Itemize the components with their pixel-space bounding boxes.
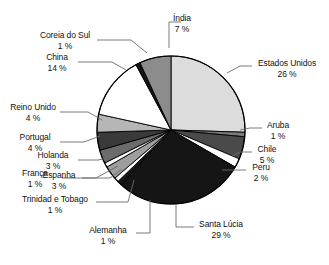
- leader-reino-unido: [60, 112, 102, 120]
- leader-portugal: [60, 136, 100, 142]
- callout-estados-unidos-name: Estados Unidos: [258, 58, 316, 68]
- callout-aruba: Aruba 1 %: [260, 120, 296, 141]
- pie-slice-estados-unidos[interactable]: [171, 56, 245, 132]
- callout-peru: Peru 2 %: [244, 162, 278, 183]
- callout-aruba-name: Aruba: [267, 120, 289, 130]
- callout-chile: Chile 5 %: [250, 144, 284, 165]
- pie-chart-figure: Índia 7 % Coreia do Sul 1 % China 14 % R…: [0, 0, 329, 265]
- callout-reino-unido-value: 4 %: [6, 113, 60, 124]
- leader-china: [78, 62, 126, 70]
- leader-alemanha: [136, 200, 150, 233]
- callout-coreia-do-sul-value: 1 %: [34, 41, 96, 52]
- callout-alemanha-value: 1 %: [80, 236, 136, 247]
- callout-reino-unido: Reino Unido 4 %: [6, 102, 60, 123]
- callout-holanda-name: Holanda: [38, 150, 69, 160]
- pie-slices: [97, 56, 245, 204]
- callout-trinidad-value: 1 %: [12, 205, 98, 216]
- leader-coreia-do-sul: [97, 40, 147, 53]
- callout-peru-value: 2 %: [244, 173, 278, 184]
- callout-alemanha: Alemanha 1 %: [80, 225, 136, 246]
- callout-santa-lucia: Santa Lúcia 29 %: [190, 219, 252, 240]
- callout-estados-unidos: Estados Unidos 26 %: [250, 58, 324, 79]
- callout-china: China 14 %: [36, 52, 78, 73]
- callout-alemanha-name: Alemanha: [89, 225, 126, 235]
- callout-china-name: China: [46, 52, 68, 62]
- callout-espanha-name: Espanha: [43, 170, 76, 180]
- callout-india-name: Índia: [173, 13, 191, 23]
- leader-estados-unidos: [227, 66, 252, 73]
- callout-coreia-do-sul-name: Coreia do Sul: [40, 30, 90, 40]
- callout-espanha-value: 3 %: [36, 181, 82, 192]
- callout-santa-lucia-value: 29 %: [190, 230, 252, 241]
- callout-portugal-name: Portugal: [20, 132, 51, 142]
- callout-china-value: 14 %: [36, 63, 78, 74]
- callout-estados-unidos-value: 26 %: [250, 69, 324, 80]
- callout-coreia-do-sul: Coreia do Sul 1 %: [34, 30, 96, 51]
- callout-reino-unido-name: Reino Unido: [10, 102, 56, 112]
- callout-aruba-value: 1 %: [260, 131, 296, 142]
- callout-chile-name: Chile: [258, 144, 277, 154]
- callout-trinidad-name: Trinidad e Tobago: [22, 194, 88, 204]
- callout-espanha: Espanha 3 %: [36, 170, 82, 191]
- callout-india-value: 7 %: [156, 24, 208, 35]
- callout-trinidad: Trinidad e Tobago 1 %: [12, 194, 98, 215]
- callout-chile-value: 5 %: [250, 155, 284, 166]
- callout-santa-lucia-name: Santa Lúcia: [199, 219, 243, 229]
- callout-india: Índia 7 %: [156, 13, 208, 34]
